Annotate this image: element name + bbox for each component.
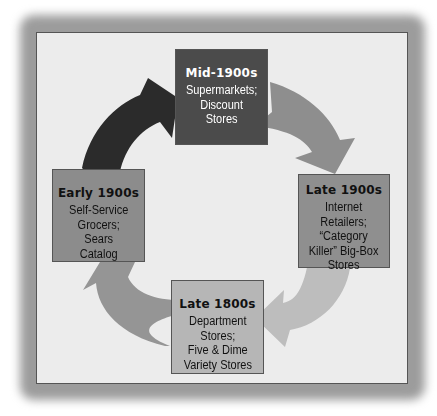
description-line: Self-Service [69, 203, 128, 218]
stage-box-early-1900s: Early 1900s Self-Service Grocers; Sears … [52, 169, 145, 262]
stage-description: Supermarkets; Discount Stores [186, 83, 258, 127]
stage-box-mid-1900s: Mid-1900s Supermarkets; Discount Stores [175, 49, 268, 145]
stage-description: Internet Retailers; “Category Killer” Bi… [309, 200, 379, 273]
arrow-late1800s-to-early [83, 262, 185, 346]
stage-era-label: Mid-1900s [186, 66, 258, 80]
description-line: Variety Stores [183, 358, 251, 373]
description-line: Sears [69, 232, 128, 247]
stage-box-late-1800s: Late 1800s Department Stores; Five & Dim… [171, 280, 264, 374]
description-line: Five & Dime [183, 343, 251, 358]
description-line: “Category [309, 229, 379, 244]
description-line: Supermarkets; [186, 83, 258, 98]
description-line: Discount [186, 98, 258, 113]
description-line: Grocers; [69, 218, 128, 233]
description-line: Stores; [183, 329, 251, 344]
description-line: Internet [309, 200, 379, 215]
stage-box-late-1900s: Late 1900s Internet Retailers; “Category… [298, 174, 390, 268]
description-line: Catalog [69, 247, 128, 262]
stage-era-label: Late 1900s [306, 183, 382, 197]
description-line: Retailers; [309, 215, 379, 230]
stage-description: Self-Service Grocers; Sears Catalog [69, 203, 128, 261]
stage-era-label: Early 1900s [58, 186, 139, 200]
stage-description: Department Stores; Five & Dime Variety S… [183, 314, 251, 372]
description-line: Stores [309, 258, 379, 273]
arrow-mid-to-late1900s [255, 82, 355, 174]
stage-era-label: Late 1800s [179, 297, 255, 311]
description-line: Department [183, 314, 251, 329]
description-line: Killer” Big-Box [309, 244, 379, 259]
description-line: Stores [186, 112, 258, 127]
